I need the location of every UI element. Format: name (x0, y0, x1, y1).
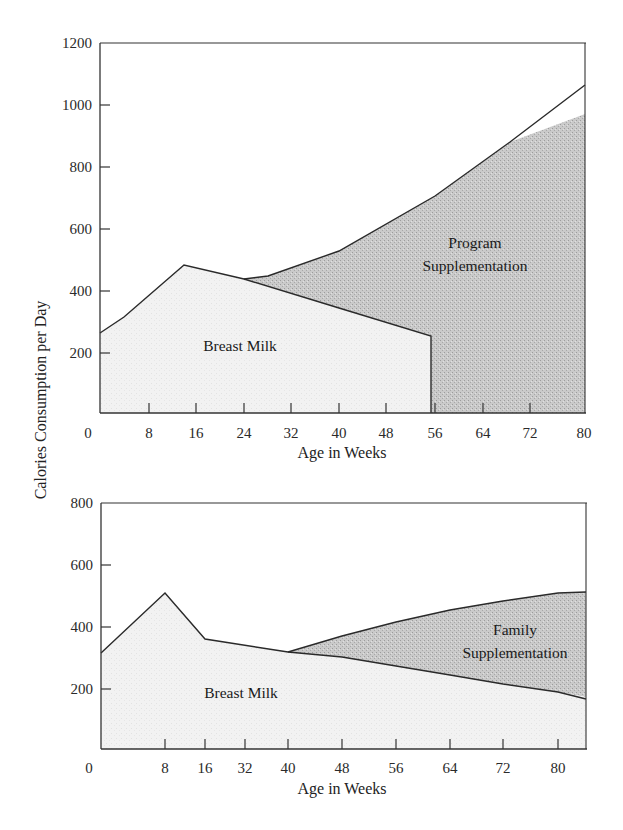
y-axis-title: Calories Consumption per Day (32, 301, 50, 500)
bottom-y-tick-label: 800 (71, 495, 94, 511)
bottom-x-tick-label: 56 (389, 760, 405, 776)
top-breast-milk-label: Breast Milk (203, 337, 277, 354)
top-x-tick-label: 56 (428, 425, 444, 441)
top-x-tick-label: 32 (284, 425, 299, 441)
top-x-tick-label: 8 (145, 425, 153, 441)
top-x-tick-label: 24 (237, 425, 253, 441)
top-y-tick-label: 1000 (62, 97, 92, 113)
bottom-x-tick-label: 16 (198, 760, 214, 776)
top-program-label-line2: Supplementation (422, 257, 527, 274)
top-x-tick-label: 40 (332, 425, 347, 441)
top-x-tick-label: 72 (523, 425, 538, 441)
bottom-x-axis-title: Age in Weeks (297, 780, 386, 798)
bottom-family-label-line2: Supplementation (462, 644, 567, 661)
bottom-family-label-line1: Family (493, 621, 537, 638)
top-x-tick-label: 48 (379, 425, 394, 441)
top-x-tick-label: 16 (189, 425, 205, 441)
top-program-label-line1: Program (448, 234, 501, 251)
bottom-x-tick-label: 0 (85, 760, 93, 776)
top-y-tick-label: 200 (70, 345, 93, 361)
top-x-tick-label: 0 (84, 425, 92, 441)
bottom-chart: 800 600 400 200 0 8 16 32 40 48 56 64 72… (71, 495, 588, 798)
bottom-y-tick-label: 200 (71, 681, 94, 697)
bottom-x-tick-label: 32 (238, 760, 253, 776)
bottom-x-tick-label: 72 (496, 760, 511, 776)
bottom-y-tick-label: 600 (71, 557, 94, 573)
top-y-ticks (100, 105, 110, 353)
bottom-x-tick-label: 48 (335, 760, 350, 776)
bottom-breast-milk-label: Breast Milk (204, 684, 278, 701)
bottom-y-tick-label: 400 (71, 619, 94, 635)
bottom-x-tick-label: 80 (551, 760, 566, 776)
top-x-axis-title: Age in Weeks (297, 444, 386, 462)
top-chart: 1200 1000 800 600 400 200 0 8 16 24 32 4… (62, 35, 592, 462)
top-y-tick-label: 400 (70, 283, 93, 299)
figure-canvas: 1200 1000 800 600 400 200 0 8 16 24 32 4… (0, 0, 623, 830)
bottom-x-tick-label: 64 (443, 760, 459, 776)
top-x-tick-label: 64 (476, 425, 492, 441)
bottom-x-tick-label: 8 (161, 760, 169, 776)
top-x-tick-label: 80 (577, 425, 592, 441)
top-y-tick-label: 600 (70, 221, 93, 237)
top-y-tick-label: 800 (70, 159, 93, 175)
bottom-x-tick-label: 40 (281, 760, 296, 776)
top-y-tick-label: 1200 (62, 35, 92, 51)
